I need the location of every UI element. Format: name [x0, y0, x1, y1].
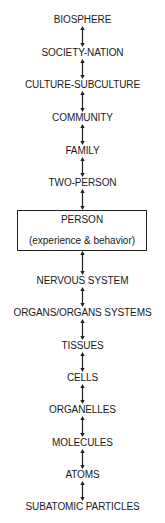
double-arrow-icon — [79, 481, 86, 501]
double-arrow-icon — [79, 416, 86, 437]
double-arrow-icon — [79, 319, 86, 340]
double-arrow-icon — [79, 157, 86, 177]
level-cells: CELLS — [0, 372, 165, 384]
double-arrow-icon — [79, 384, 86, 404]
level-family: FAMILY — [0, 145, 165, 157]
person-subtitle: (experience & behavior) — [18, 235, 146, 247]
person-box: PERSON (experience & behavior) — [17, 210, 147, 251]
double-arrow-icon — [79, 26, 86, 47]
double-arrow-icon — [79, 449, 86, 469]
level-society-nation: SOCIETY-NATION — [0, 47, 165, 59]
level-atoms: ATOMS — [0, 469, 165, 481]
double-arrow-icon — [79, 251, 86, 275]
double-arrow-icon — [79, 59, 86, 79]
level-organelles: ORGANELLES — [0, 404, 165, 416]
level-molecules: MOLECULES — [0, 437, 165, 449]
level-biosphere: BIOSPHERE — [0, 14, 165, 26]
level-subatomic-particles: SUBATOMIC PARTICLES — [0, 501, 165, 513]
double-arrow-icon — [79, 287, 86, 307]
double-arrow-icon — [79, 91, 86, 112]
level-community: COMMUNITY — [0, 112, 165, 124]
level-nervous-system: NERVOUS SYSTEM — [0, 275, 165, 287]
double-arrow-icon — [79, 352, 86, 372]
person-title: PERSON — [18, 214, 146, 226]
level-tissues: TISSUES — [0, 340, 165, 352]
level-organs-systems: ORGANS/ORGANS SYSTEMS — [0, 307, 165, 319]
level-two-person: TWO-PERSON — [0, 177, 165, 189]
double-arrow-icon — [79, 189, 86, 210]
double-arrow-icon — [79, 124, 86, 145]
level-culture-subculture: CULTURE-SUBCULTURE — [0, 79, 165, 91]
